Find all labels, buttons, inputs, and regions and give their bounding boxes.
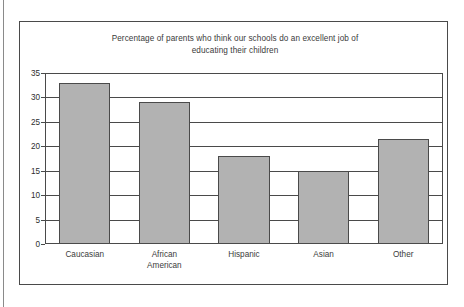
y-axis-tick-mark: [41, 122, 45, 123]
x-axis-tick-label: Asian: [313, 249, 333, 260]
y-axis-tick-label: 30: [31, 93, 40, 102]
bar: [378, 139, 429, 244]
x-axis-tick-label: Hispanic: [228, 249, 259, 260]
chart-frame: Percentage of parents who think our scho…: [19, 21, 448, 285]
y-axis-tick-mark: [41, 220, 45, 221]
y-axis-line: [45, 73, 46, 244]
bar: [298, 171, 349, 244]
y-axis-tick-mark: [41, 195, 45, 196]
y-axis-tick-mark: [41, 97, 45, 98]
x-axis-tick-label: African American: [147, 249, 182, 271]
chart-title-line-2: educating their children: [60, 45, 410, 57]
bar: [218, 156, 269, 244]
chart-title: Percentage of parents who think our scho…: [60, 33, 410, 56]
y-axis-tick-mark: [41, 244, 45, 245]
bar: [59, 83, 110, 244]
x-axis-tick-label: Caucasian: [65, 249, 104, 260]
y-axis-tick-label: 0: [35, 240, 40, 249]
plot-area: 05101520253035 CaucasianAfrican American…: [45, 73, 443, 244]
x-axis-tick-label: Other: [393, 249, 413, 260]
y-axis-tick-label: 15: [31, 166, 40, 175]
bar: [139, 102, 190, 244]
y-axis-tick-mark: [41, 73, 45, 74]
y-axis-tick-label: 5: [35, 215, 40, 224]
y-axis-tick-label: 10: [31, 191, 40, 200]
y-axis-tick-label: 25: [31, 117, 40, 126]
y-axis-tick-mark: [41, 146, 45, 147]
chart-title-line-1: Percentage of parents who think our scho…: [60, 33, 410, 45]
page-left-rule: [3, 0, 4, 307]
right-axis-line: [442, 73, 443, 244]
y-axis-tick-label: 35: [31, 69, 40, 78]
y-axis-tick-label: 20: [31, 142, 40, 151]
y-axis-tick-mark: [41, 171, 45, 172]
grid-line: [45, 73, 443, 74]
